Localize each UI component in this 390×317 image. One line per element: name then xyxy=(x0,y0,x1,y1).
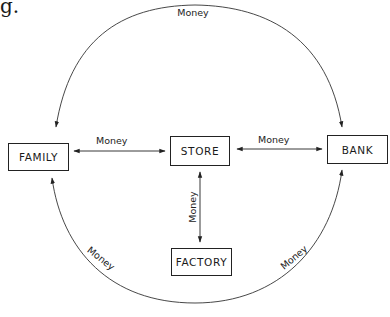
store-bank-label: Money xyxy=(258,134,290,145)
bank-node: BANK xyxy=(327,135,388,164)
bottom-left-arc-label: Money xyxy=(85,244,117,272)
top-arc-left-arrow xyxy=(56,5,195,127)
top-arc-right-arrow xyxy=(195,5,342,127)
bottom-arc-right-arrow xyxy=(195,170,342,303)
family-node-label: FAMILY xyxy=(19,151,58,163)
bank-node-label: BANK xyxy=(342,144,374,156)
store-factory-label: Money xyxy=(187,191,198,223)
top-arc-label: Money xyxy=(177,7,209,18)
store-node: STORE xyxy=(170,136,230,166)
family-store-label: Money xyxy=(96,135,128,146)
bottom-arc-left-arrow xyxy=(52,178,195,303)
family-node: FAMILY xyxy=(8,143,69,171)
factory-node-label: FACTORY xyxy=(176,256,227,268)
factory-node: FACTORY xyxy=(171,248,232,276)
store-node-label: STORE xyxy=(181,145,219,157)
